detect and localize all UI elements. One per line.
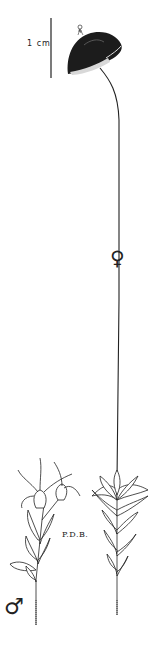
seta: [100, 68, 119, 480]
male-symbol: ♂: [4, 596, 24, 618]
moss-illustration: [0, 0, 163, 650]
female-plant: [92, 470, 148, 615]
scale-bar-label: 1 cm: [27, 39, 51, 48]
capsule: [68, 25, 122, 75]
artist-signature: P.D.B.: [62, 530, 88, 539]
female-symbol: ♀: [110, 248, 125, 268]
